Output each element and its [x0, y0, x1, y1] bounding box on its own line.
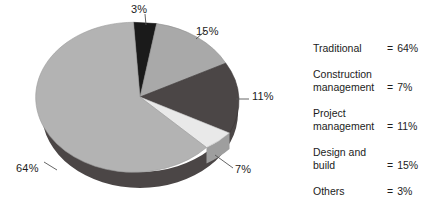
legend-item-design-and-build: Design and build = 15% [313, 146, 440, 172]
legend-item-project-management: Project management = 11% [313, 107, 440, 133]
legend-equals: = [387, 185, 397, 198]
legend-item-others: Others = 3% [313, 185, 440, 198]
pie-chart-svg [0, 0, 300, 214]
legend-label: Construction management [313, 68, 387, 94]
legend-label: Traditional [313, 42, 387, 55]
legend-value: 11% [397, 120, 417, 133]
legend-equals: = [387, 81, 397, 94]
chart-plot-area: 3% 15% 11% 7% 64% [0, 0, 300, 214]
legend-value: 7% [397, 81, 412, 94]
slice-label-construction-management: 7% [235, 163, 251, 175]
leader-line-construction-management [215, 155, 233, 168]
legend-equals: = [387, 120, 397, 133]
legend: Traditional = 64% Construction managemen… [313, 42, 440, 198]
slice-label-others: 3% [131, 3, 147, 15]
legend-value: 3% [397, 185, 412, 198]
legend-label: Others [313, 185, 387, 198]
slice-label-design-and-build: 15% [196, 25, 219, 37]
legend-equals: = [387, 159, 397, 172]
leader-line-traditional [44, 162, 57, 170]
legend-item-traditional: Traditional = 64% [313, 42, 440, 55]
pie-chart-figure: 3% 15% 11% 7% 64% Traditional = 64% Cons… [0, 0, 440, 214]
legend-label: Project management [313, 107, 387, 133]
legend-equals: = [387, 42, 397, 55]
slice-label-project-management: 11% [252, 90, 274, 102]
slice-label-traditional: 64% [16, 162, 39, 174]
legend-value: 64% [397, 42, 418, 55]
legend-label: Design and build [313, 146, 387, 172]
legend-value: 15% [397, 159, 418, 172]
legend-item-construction-management: Construction management = 7% [313, 68, 440, 94]
